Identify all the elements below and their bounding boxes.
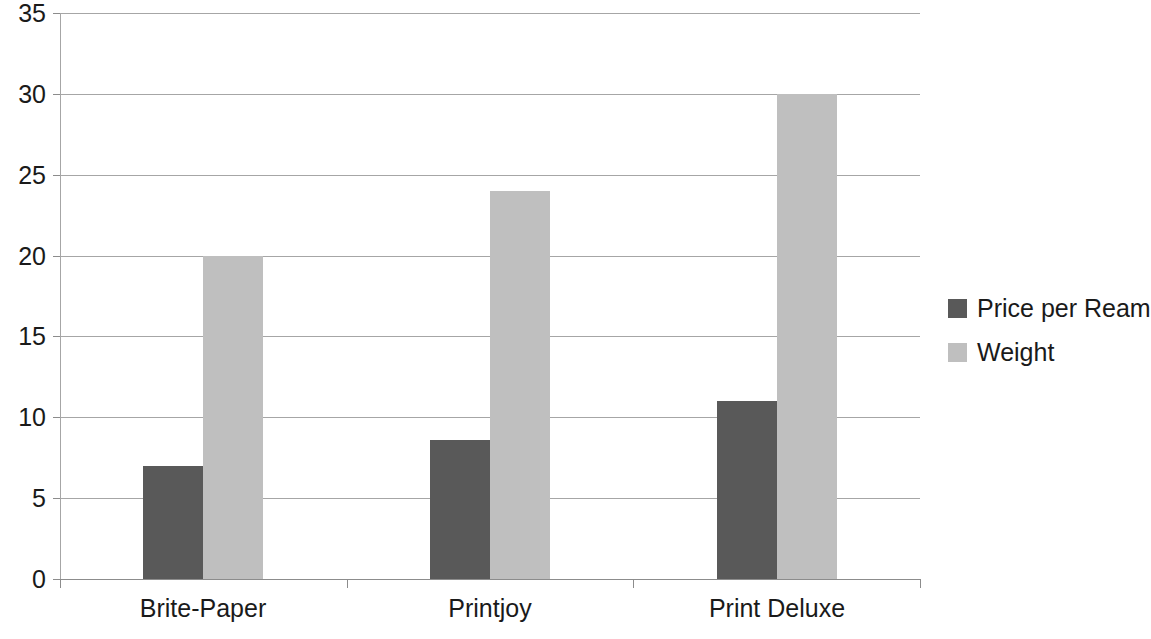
bar-brite-paper-price-per-ream xyxy=(143,466,203,579)
x-tick-label: Print Deluxe xyxy=(627,596,927,621)
y-tick-mark xyxy=(53,498,60,499)
legend-swatch-icon xyxy=(948,299,967,318)
x-axis-separator xyxy=(920,579,921,588)
y-tick-label: 5 xyxy=(0,486,46,511)
y-tick-mark xyxy=(53,94,60,95)
plot-area xyxy=(60,13,920,579)
chart-legend: Price per ReamWeight xyxy=(948,286,1151,374)
y-tick-label: 0 xyxy=(0,567,46,592)
y-tick-label: 30 xyxy=(0,82,46,107)
y-tick-mark xyxy=(53,417,60,418)
y-tick-label: 20 xyxy=(0,244,46,269)
y-tick-label: 10 xyxy=(0,405,46,430)
y-tick-label: 25 xyxy=(0,163,46,188)
x-axis-separator xyxy=(347,579,348,588)
legend-swatch-icon xyxy=(948,343,967,362)
y-tick-mark xyxy=(53,579,60,580)
x-tick-label: Printjoy xyxy=(340,596,640,621)
y-tick-mark xyxy=(53,256,60,257)
y-tick-label: 15 xyxy=(0,324,46,349)
x-axis-line xyxy=(60,579,920,580)
legend-item-price-per-ream[interactable]: Price per Ream xyxy=(948,286,1151,330)
y-tick-label: 35 xyxy=(0,1,46,26)
bar-printjoy-weight xyxy=(490,191,550,579)
y-tick-mark xyxy=(53,175,60,176)
y-tick-mark xyxy=(53,336,60,337)
x-axis-separator xyxy=(60,579,61,588)
bar-print-deluxe-weight xyxy=(777,94,837,579)
bar-brite-paper-weight xyxy=(203,256,263,579)
legend-item-weight[interactable]: Weight xyxy=(948,330,1151,374)
bar-printjoy-price-per-ream xyxy=(430,440,490,579)
y-tick-mark xyxy=(53,13,60,14)
x-axis-separator xyxy=(633,579,634,588)
bar-print-deluxe-price-per-ream xyxy=(717,401,777,579)
legend-label: Price per Ream xyxy=(977,296,1151,321)
legend-label: Weight xyxy=(977,340,1054,365)
x-tick-label: Brite-Paper xyxy=(53,596,353,621)
